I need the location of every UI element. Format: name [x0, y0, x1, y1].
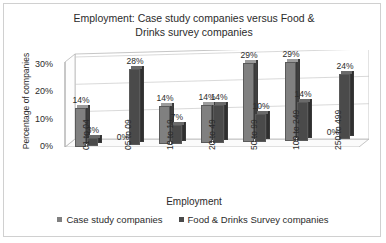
- bar-side-face: [350, 71, 354, 137]
- bar-top-face: [77, 105, 88, 108]
- bar-value-label-2-4: 14%: [207, 92, 232, 102]
- bar-value-label-2-5: 10%: [249, 101, 274, 111]
- bar-side-face: [308, 99, 312, 137]
- y-axis-tick-30: 30%: [23, 59, 53, 69]
- bar-value-label-2-7: 24%: [333, 61, 358, 71]
- bar-top-face: [341, 71, 352, 74]
- bar-value-label-2-2: 28%: [123, 56, 148, 66]
- bar-top-face: [287, 59, 298, 62]
- legend-swatch-icon: [57, 217, 62, 222]
- x-axis-label-4: 20 to 49: [207, 119, 217, 150]
- x-axis-label-2: 05 to 09: [123, 119, 133, 150]
- y-axis-tick-10: 10%: [23, 114, 53, 124]
- legend-label: Food & Drinks Survey companies: [188, 214, 329, 225]
- chart-container: Employment: Case study companies versus …: [3, 3, 381, 237]
- bar-top-face: [131, 66, 142, 69]
- bar-side-face: [224, 102, 228, 140]
- bar-side-face: [140, 66, 144, 143]
- x-axis-label-3: 10 to 19: [165, 119, 175, 150]
- bar-top-face: [257, 111, 268, 114]
- x-axis-label-5: 50 to 99: [249, 119, 259, 150]
- x-axis-title: Employment: [104, 196, 284, 207]
- y-axis-tick-0: 0%: [23, 141, 53, 151]
- bar-side-face: [266, 111, 270, 138]
- bar-value-label-1-3: 14%: [153, 93, 178, 103]
- chart-title: Employment: Case study companies versus …: [54, 11, 334, 39]
- y-axis-tick-20: 20%: [23, 86, 53, 96]
- bar-top-face: [245, 60, 256, 63]
- x-axis-label-1: 01 to 04: [81, 119, 91, 150]
- legend-item-2[interactable]: Food & Drinks Survey companies: [179, 214, 329, 225]
- chart-legend: Case study companiesFood & Drinks Survey…: [4, 214, 382, 225]
- legend-item-1[interactable]: Case study companies: [57, 214, 162, 225]
- bar-top-face: [215, 102, 226, 105]
- x-axis-label-7: 250 to 499: [333, 110, 343, 150]
- legend-label: Case study companies: [66, 214, 162, 225]
- bar-top-face: [299, 99, 310, 102]
- bar-value-label-1-5: 29%: [237, 50, 262, 60]
- bar-value-label-2-6: 14%: [291, 89, 316, 99]
- legend-swatch-icon: [179, 217, 184, 222]
- bar-value-label-1-6: 29%: [279, 49, 304, 59]
- x-axis-label-6: 100 to 249: [291, 110, 301, 150]
- bar-value-label-1-1: 14%: [69, 95, 94, 105]
- bar-top-face: [161, 103, 172, 106]
